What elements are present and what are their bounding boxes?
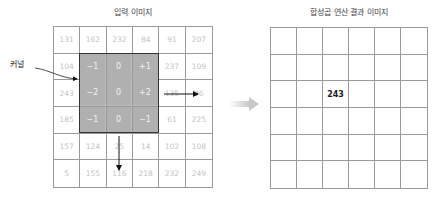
kernel-cell: −1 <box>80 54 106 80</box>
output-cell <box>271 28 297 55</box>
output-cell: 243 <box>323 81 349 108</box>
input-cell: 157 <box>54 134 80 161</box>
output-cell <box>271 161 297 188</box>
kernel-cell: 0 <box>106 80 132 106</box>
output-cell <box>271 55 297 82</box>
input-cell: 225 <box>186 107 212 134</box>
input-image-title: 입력 이미지 <box>53 6 213 17</box>
input-cell: 232 <box>107 27 133 54</box>
input-cell: 14 <box>133 134 159 161</box>
kernel-cell: −1 <box>132 106 158 132</box>
kernel-cell: 0 <box>106 106 132 132</box>
input-cell: 116 <box>107 160 133 187</box>
input-cell: 243 <box>54 80 80 107</box>
input-cell: 84 <box>133 27 159 54</box>
output-cell <box>297 161 323 188</box>
input-cell: 162 <box>80 27 106 54</box>
output-cell <box>271 108 297 135</box>
input-cell: 26 <box>186 80 212 107</box>
output-cell <box>375 81 401 108</box>
output-cell <box>401 108 427 135</box>
kernel-cell: +2 <box>132 80 158 106</box>
output-cell <box>401 28 427 55</box>
output-cell <box>375 28 401 55</box>
input-cell: 237 <box>159 54 185 81</box>
output-cell <box>323 28 349 55</box>
output-cell <box>349 161 375 188</box>
output-cell <box>375 135 401 162</box>
output-cell <box>297 55 323 82</box>
input-cell: 131 <box>54 27 80 54</box>
output-cell <box>323 161 349 188</box>
output-cell <box>323 55 349 82</box>
output-cell <box>297 108 323 135</box>
output-cell <box>323 108 349 135</box>
input-cell: 124 <box>80 134 106 161</box>
output-cell <box>349 55 375 82</box>
output-cell <box>297 28 323 55</box>
output-cell <box>401 81 427 108</box>
input-cell: 91 <box>159 27 185 54</box>
kernel-cell: −1 <box>80 106 106 132</box>
output-image-title: 합성곱 연산 결과 이미지 <box>270 6 428 17</box>
output-cell <box>401 161 427 188</box>
output-cell <box>323 135 349 162</box>
output-cell <box>271 135 297 162</box>
kernel-cell: −2 <box>80 80 106 106</box>
output-cell <box>349 108 375 135</box>
kernel-cell: 0 <box>106 54 132 80</box>
input-cell: 218 <box>133 160 159 187</box>
input-cell: 102 <box>159 134 185 161</box>
kernel-matrix: −10+1−20+2−10−1 <box>79 53 159 133</box>
input-cell: 232 <box>159 160 185 187</box>
output-cell <box>349 28 375 55</box>
input-cell: 5 <box>54 160 80 187</box>
output-cell <box>349 81 375 108</box>
output-image-grid: 243 <box>270 27 428 189</box>
input-cell: 135 <box>159 80 185 107</box>
input-cell: 108 <box>186 134 212 161</box>
input-cell: 61 <box>159 107 185 134</box>
output-cell <box>349 135 375 162</box>
transition-arrow-icon <box>229 97 259 111</box>
input-cell: 207 <box>186 27 212 54</box>
input-cell: 109 <box>186 54 212 81</box>
kernel-cell: +1 <box>132 54 158 80</box>
output-cell <box>401 55 427 82</box>
output-cell <box>297 81 323 108</box>
output-cell <box>271 81 297 108</box>
output-cell <box>401 135 427 162</box>
kernel-label: 커널 <box>10 58 24 69</box>
output-cell <box>375 161 401 188</box>
input-cell: 185 <box>54 107 80 134</box>
input-cell: 25 <box>107 134 133 161</box>
output-cell <box>375 55 401 82</box>
input-cell: 249 <box>186 160 212 187</box>
output-cell <box>297 135 323 162</box>
input-cell: 155 <box>80 160 106 187</box>
input-cell: 104 <box>54 54 80 81</box>
output-cell <box>375 108 401 135</box>
